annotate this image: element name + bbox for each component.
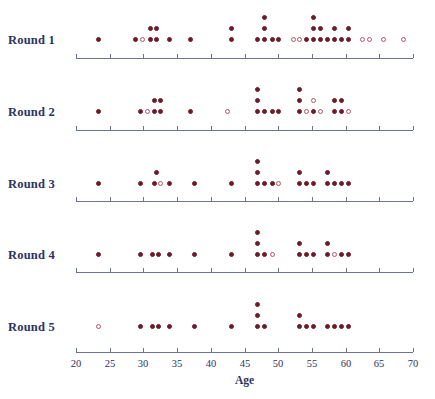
data-point [346, 37, 351, 42]
data-point [138, 181, 143, 186]
data-point [138, 109, 143, 114]
axis-tick [278, 54, 279, 58]
data-point [270, 252, 275, 257]
axis-tick-label: 70 [401, 358, 425, 369]
data-point [332, 181, 337, 186]
data-point [318, 109, 323, 114]
data-point [229, 252, 234, 257]
axis-tick [413, 126, 414, 130]
data-point [304, 181, 309, 186]
axis-tick-label: 25 [98, 358, 122, 369]
axis-tick-label: 45 [233, 358, 257, 369]
axis-tick [76, 197, 77, 201]
data-point [270, 181, 275, 186]
data-point [255, 170, 260, 175]
data-point [150, 324, 155, 329]
row-label-round-1: Round 1 [8, 33, 55, 48]
row-label-round-2: Round 2 [8, 105, 55, 120]
data-point [133, 37, 138, 42]
data-point [154, 170, 159, 175]
data-point [297, 109, 302, 114]
data-point [255, 159, 260, 164]
data-point [318, 37, 323, 42]
data-point [297, 98, 302, 103]
data-point [339, 109, 344, 114]
data-point [346, 26, 351, 31]
data-point [255, 313, 260, 318]
axis-tick [177, 197, 178, 201]
data-point [297, 170, 302, 175]
data-point [276, 109, 281, 114]
row-label-round-3: Round 3 [8, 177, 55, 192]
data-point [325, 181, 330, 186]
axis-tick [143, 348, 144, 352]
data-point [325, 37, 330, 42]
axis-tick [143, 126, 144, 130]
axis-tick [312, 348, 313, 352]
axis-tick [143, 197, 144, 201]
data-point [311, 252, 316, 257]
axis-tick [346, 268, 347, 272]
data-point [346, 181, 351, 186]
axis-tick-label: 20 [64, 358, 88, 369]
data-point [304, 252, 309, 257]
data-point [276, 37, 281, 42]
data-point [154, 37, 159, 42]
data-point [156, 252, 161, 257]
axis-tick [76, 268, 77, 272]
axis-tick [110, 54, 111, 58]
axis-tick-label: 30 [131, 358, 155, 369]
data-point [225, 109, 230, 114]
data-point [325, 324, 330, 329]
data-point [311, 15, 316, 20]
axis-tick [110, 268, 111, 272]
data-point [262, 324, 267, 329]
data-point [325, 252, 330, 257]
row-label-round-5: Round 5 [8, 320, 55, 335]
axis-tick [312, 197, 313, 201]
data-point [158, 98, 163, 103]
axis-tick [245, 268, 246, 272]
axis-tick [346, 197, 347, 201]
axis-tick [278, 126, 279, 130]
data-point [255, 98, 260, 103]
data-point [262, 252, 267, 257]
data-point [332, 324, 337, 329]
data-point [325, 241, 330, 246]
data-point [311, 181, 316, 186]
data-point [311, 37, 316, 42]
axis-tick [143, 54, 144, 58]
data-point [297, 241, 302, 246]
data-point [339, 98, 344, 103]
axis-tick [245, 348, 246, 352]
data-point [255, 109, 260, 114]
data-point [96, 324, 101, 329]
axis-tick [211, 54, 212, 58]
axis-tick [211, 126, 212, 130]
data-point [311, 324, 316, 329]
axis-tick [211, 348, 212, 352]
axis-line-4 [76, 272, 413, 273]
data-point [152, 109, 157, 114]
data-point [339, 181, 344, 186]
data-point [192, 181, 197, 186]
axis-tick [413, 268, 414, 272]
data-point [339, 37, 344, 42]
data-point [229, 37, 234, 42]
data-point [192, 252, 197, 257]
axis-tick [379, 197, 380, 201]
data-point [255, 181, 260, 186]
data-point [318, 26, 323, 31]
data-point [270, 37, 275, 42]
axis-tick [278, 197, 279, 201]
axis-tick [110, 197, 111, 201]
axis-line-3 [76, 201, 413, 202]
data-point [148, 37, 153, 42]
axis-tick [76, 54, 77, 58]
axis-tick-label: 60 [334, 358, 358, 369]
axis-tick [76, 126, 77, 130]
data-point [96, 181, 101, 186]
data-point [138, 324, 143, 329]
data-point [138, 252, 143, 257]
data-point [291, 37, 296, 42]
